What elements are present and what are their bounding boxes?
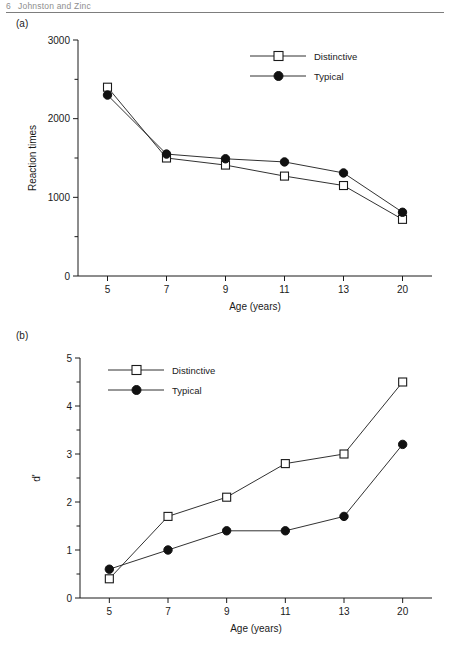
x-tick-label: 7 [165, 606, 171, 617]
y-axis-title: d' [31, 474, 42, 482]
legend-marker-distinctive [274, 52, 283, 61]
data-point-typical [105, 565, 113, 573]
data-point-typical [339, 169, 347, 177]
x-tick-label: 9 [223, 284, 229, 295]
series-line-typical [109, 444, 402, 569]
running-head-title: Johnston and Zinc [18, 1, 91, 11]
data-point-distinctive [340, 182, 348, 190]
data-point-distinctive [281, 460, 289, 468]
data-point-distinctive [223, 493, 231, 501]
series-line-distinctive [108, 87, 403, 219]
legend-label: Distinctive [172, 365, 215, 376]
x-tick-label: 11 [279, 284, 290, 295]
x-tick-label: 13 [338, 606, 350, 617]
y-axis-title: Reaction times [27, 125, 38, 191]
x-tick-label: 11 [280, 606, 291, 617]
x-tick-label: 7 [164, 284, 170, 295]
data-point-typical [162, 150, 170, 158]
data-point-distinctive [105, 575, 113, 583]
data-point-distinctive [104, 83, 112, 91]
chart-a-svg: 0100020003000579111320Age (years)Reactio… [0, 28, 451, 328]
legend-marker-distinctive [132, 366, 141, 375]
y-tick-label: 1000 [48, 192, 71, 203]
data-point-typical [221, 155, 229, 163]
x-tick-label: 9 [224, 606, 230, 617]
y-tick-label: 0 [64, 271, 70, 282]
y-tick-label: 2 [66, 497, 72, 508]
x-axis-title: Age (years) [229, 301, 281, 312]
legend-label: Typical [314, 71, 344, 82]
chart-panel-a: 0100020003000579111320Age (years)Reactio… [0, 28, 451, 328]
data-point-typical [281, 527, 289, 535]
data-point-typical [280, 158, 288, 166]
legend-marker-typical [132, 386, 141, 395]
legend-label: Typical [172, 385, 202, 396]
y-tick-label: 5 [66, 353, 72, 364]
data-point-distinctive [340, 450, 348, 458]
x-axis-title: Age (years) [230, 623, 282, 634]
x-tick-label: 5 [107, 606, 113, 617]
y-tick-label: 1 [66, 545, 72, 556]
data-point-typical [398, 208, 406, 216]
y-tick-label: 4 [66, 401, 72, 412]
data-point-typical [222, 527, 230, 535]
data-point-typical [340, 512, 348, 520]
data-point-distinctive [399, 378, 407, 386]
data-point-distinctive [281, 172, 289, 180]
x-tick-label: 20 [397, 606, 409, 617]
data-point-typical [164, 546, 172, 554]
chart-b-svg: 012345579111320Age (years)d'DistinctiveT… [0, 340, 451, 671]
data-point-distinctive [164, 512, 172, 520]
legend-marker-typical [274, 72, 283, 81]
x-tick-label: 20 [397, 284, 409, 295]
data-point-typical [103, 91, 111, 99]
y-tick-label: 2000 [48, 113, 71, 124]
page-root: 6 Johnston and Zinc (a) (b) 010002000300… [0, 0, 451, 671]
y-tick-label: 0 [66, 593, 72, 604]
y-tick-label: 3 [66, 449, 72, 460]
series-line-typical [108, 95, 403, 212]
x-tick-label: 13 [338, 284, 350, 295]
x-tick-label: 5 [105, 284, 111, 295]
header-divider [6, 12, 444, 13]
legend-label: Distinctive [314, 51, 357, 62]
y-tick-label: 3000 [48, 35, 71, 46]
chart-panel-b: 012345579111320Age (years)d'DistinctiveT… [0, 340, 451, 671]
running-head-number: 6 [6, 1, 11, 11]
series-line-distinctive [109, 382, 402, 579]
data-point-typical [398, 440, 406, 448]
